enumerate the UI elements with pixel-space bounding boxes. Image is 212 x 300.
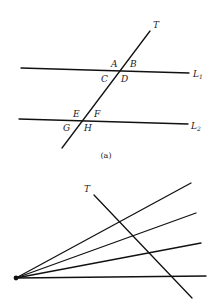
- figure-a: T A B C D L1 E F G H L2 (a): [19, 20, 203, 160]
- angle-label-e: E: [72, 109, 80, 119]
- line-l1: [21, 68, 189, 73]
- angle-label-d: D: [120, 74, 128, 84]
- ray-4: [16, 276, 206, 278]
- label-t-a: T: [153, 20, 160, 30]
- label-l2: L2: [190, 121, 201, 132]
- caption-a: (a): [100, 151, 111, 160]
- angle-label-a: A: [110, 59, 118, 69]
- label-l1: L1: [192, 69, 203, 80]
- line-l2: [19, 119, 188, 124]
- angle-label-b: B: [129, 59, 137, 69]
- angle-label-h: H: [83, 123, 92, 133]
- diagram-canvas: T A B C D L1 E F G H L2 (a) T: [0, 0, 212, 300]
- figure-b: T: [14, 183, 206, 298]
- ray-3: [16, 243, 201, 278]
- label-t-b: T: [84, 184, 91, 194]
- ray-2: [16, 213, 196, 278]
- angle-label-g: G: [63, 123, 70, 133]
- vertex-point: [14, 276, 19, 281]
- angle-label-f: F: [93, 109, 101, 119]
- transversal-t: [62, 31, 150, 148]
- transversal-t-b: [94, 195, 192, 298]
- ray-1: [16, 183, 191, 278]
- angle-label-c: C: [101, 74, 108, 84]
